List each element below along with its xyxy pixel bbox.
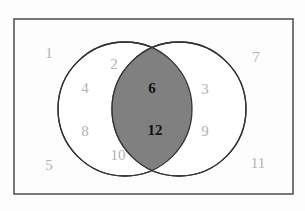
venn-number-11: 11 [251, 156, 265, 171]
venn-number-5: 5 [45, 158, 53, 173]
venn-number-3: 3 [201, 82, 209, 97]
venn-diagram-canvas [0, 0, 305, 211]
venn-diagram-figure: 123456789101112 [0, 0, 305, 211]
venn-number-1: 1 [45, 46, 53, 61]
venn-number-2: 2 [110, 57, 118, 72]
venn-number-8: 8 [81, 124, 89, 139]
venn-number-9: 9 [201, 124, 209, 139]
venn-number-12: 12 [148, 123, 163, 138]
venn-number-10: 10 [111, 148, 126, 163]
venn-number-7: 7 [252, 50, 260, 65]
venn-number-4: 4 [81, 81, 89, 96]
venn-number-6: 6 [148, 81, 156, 96]
